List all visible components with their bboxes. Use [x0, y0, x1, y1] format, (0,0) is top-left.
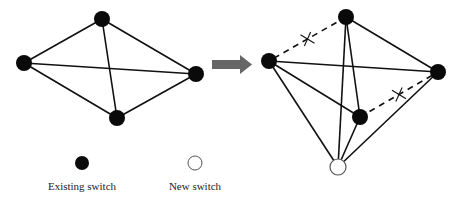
legend-existing-switch-label: Existing switch — [48, 180, 117, 192]
before-edge-top-left — [24, 19, 102, 63]
before-existing-switch-node-right — [188, 66, 204, 82]
legend-new-switch-label: New switch — [169, 180, 222, 192]
before-edge-top-right — [102, 19, 196, 74]
transition-arrow-icon — [212, 55, 252, 74]
after-existing-switch-node-left — [261, 53, 277, 69]
after-existing-switch-node-right — [430, 64, 446, 80]
before-existing-switch-node-bottom — [109, 110, 125, 126]
before-edge-left-bottom — [24, 63, 117, 118]
after-graph-edges — [269, 17, 438, 167]
removed-link-cross-icon — [301, 32, 315, 46]
after-edge-left-new — [269, 61, 338, 167]
after-edge-top-right — [346, 17, 438, 72]
legend: Existing switch New switch — [48, 156, 222, 192]
before-existing-switch-node-top — [94, 11, 110, 27]
topology-diagram: Existing switch New switch — [0, 0, 462, 204]
before-existing-switch-node-left — [16, 55, 32, 71]
after-existing-switch-node-mid — [352, 109, 368, 125]
legend-new-switch-icon — [188, 156, 202, 170]
after-edge-left-mid — [269, 61, 360, 117]
before-edge-right-bottom — [117, 74, 196, 118]
legend-existing-switch-icon — [75, 156, 89, 170]
after-existing-switch-node-top — [338, 9, 354, 25]
removed-link-cross-icon — [392, 88, 406, 102]
after-new-switch-node — [330, 159, 346, 175]
before-graph-edges — [24, 19, 196, 118]
after-edge-top-new — [338, 17, 346, 167]
